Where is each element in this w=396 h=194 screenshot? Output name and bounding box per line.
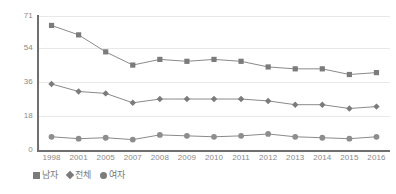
circle-marker-icon[interactable] [157,132,163,138]
circle-marker-icon [100,172,107,179]
square-marker-icon[interactable] [266,64,271,69]
series-1 [49,23,379,77]
diamond-marker-icon[interactable] [265,98,271,104]
square-marker-icon[interactable] [293,66,298,71]
series-layer [0,0,396,160]
circle-marker-icon[interactable] [265,131,271,137]
circle-marker-icon[interactable] [184,133,190,139]
square-marker-icon[interactable] [130,62,135,67]
series-line [52,25,377,74]
x-tick-label: 2016 [358,152,394,164]
legend-item-label: 여자 [109,170,125,180]
diamond-marker-icon[interactable] [75,88,81,94]
diamond-marker-icon[interactable] [346,105,352,111]
diamond-marker-icon [66,171,74,179]
square-marker-icon[interactable] [157,57,162,62]
square-marker-icon[interactable] [374,70,379,75]
legend-item-male[interactable]: 남자 [33,170,58,180]
circle-marker-icon[interactable] [319,135,325,141]
circle-marker-icon[interactable] [211,134,217,140]
square-marker-icon[interactable] [211,57,216,62]
series-3 [49,131,380,142]
diamond-marker-icon[interactable] [292,102,298,108]
diamond-marker-icon[interactable] [157,96,163,102]
circle-marker-icon[interactable] [130,137,136,143]
square-marker-icon[interactable] [76,32,81,37]
diamond-marker-icon[interactable] [48,81,54,87]
legend-item-label: 남자 [42,170,58,180]
circle-marker-icon[interactable] [374,134,380,140]
line-chart: 71 54 36 18 0 19982001200520072008200920… [0,0,396,160]
diamond-marker-icon[interactable] [184,96,190,102]
legend-item-label: 전체 [75,170,91,180]
square-marker-icon[interactable] [320,66,325,71]
circle-marker-icon[interactable] [103,135,109,141]
x-axis-ticks: 1998200120052007200820092010201120122013… [38,152,390,166]
square-marker-icon[interactable] [238,59,243,64]
chart-legend: 남자 전체 여자 [33,168,125,182]
square-marker-icon [33,172,40,179]
circle-marker-icon[interactable] [49,134,55,140]
circle-marker-icon[interactable] [292,134,298,140]
chart-screenshot: 71 54 36 18 0 19982001200520072008200920… [0,0,396,194]
diamond-marker-icon[interactable] [211,96,217,102]
diamond-marker-icon[interactable] [102,90,108,96]
diamond-marker-icon[interactable] [130,100,136,106]
diamond-marker-icon[interactable] [238,96,244,102]
circle-marker-icon[interactable] [76,136,82,142]
diamond-marker-icon[interactable] [373,103,379,109]
square-marker-icon[interactable] [184,59,189,64]
square-marker-icon[interactable] [347,72,352,77]
legend-item-total[interactable]: 전체 [67,170,91,180]
legend-item-female[interactable]: 여자 [100,170,125,180]
square-marker-icon[interactable] [49,23,54,28]
square-marker-icon[interactable] [103,49,108,54]
circle-marker-icon[interactable] [238,133,244,139]
circle-marker-icon[interactable] [346,136,352,142]
diamond-marker-icon[interactable] [319,102,325,108]
series-2 [48,81,379,112]
